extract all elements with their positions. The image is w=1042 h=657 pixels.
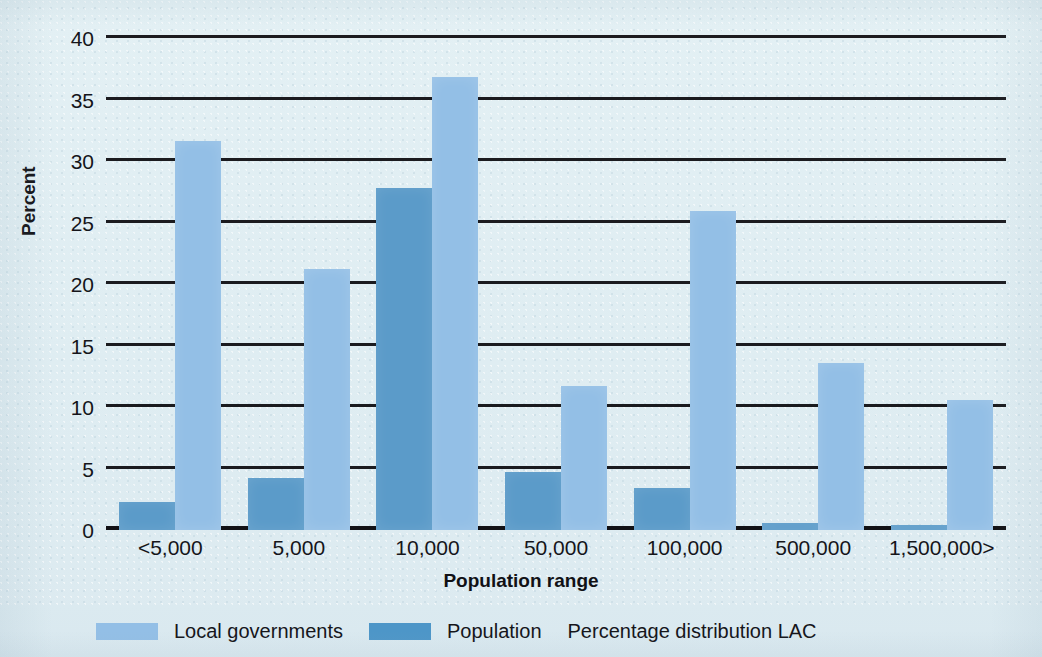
y-axis-tick-label: 30 <box>48 151 94 172</box>
bar-local-governments <box>818 363 864 530</box>
bar-local-governments <box>304 269 350 530</box>
y-axis-tick-label: 5 <box>48 458 94 479</box>
bar-group <box>749 38 878 530</box>
bar-local-governments <box>690 211 736 530</box>
legend-entry-population: Population <box>369 620 542 643</box>
bar-population <box>248 478 304 530</box>
y-axis-tick-label: 15 <box>48 335 94 356</box>
x-axis-tick-label: 5,000 <box>235 536 364 559</box>
bar-group <box>492 38 621 530</box>
bar-local-governments <box>561 386 607 530</box>
bar-population <box>505 472 561 530</box>
x-axis-tick-label: 50,000 <box>492 536 621 559</box>
y-axis-tick-label: 20 <box>48 274 94 295</box>
x-axis-tick-labels: <5,0005,00010,00050,000100,000500,0001,5… <box>106 536 1006 559</box>
legend-label-local-governments: Local governments <box>174 620 343 643</box>
bar-population <box>762 523 818 530</box>
bar-group <box>363 38 492 530</box>
y-axis-tick-label: 10 <box>48 397 94 418</box>
bar-group <box>620 38 749 530</box>
bar-local-governments <box>432 77 478 530</box>
y-axis-tick-label: 35 <box>48 89 94 110</box>
bar-local-governments <box>175 141 221 530</box>
y-axis-title: Percent <box>18 166 40 236</box>
bar-group <box>106 38 235 530</box>
bar-population <box>119 502 175 530</box>
x-axis-title: Population range <box>0 570 1042 592</box>
y-axis-tick-label: 0 <box>48 520 94 541</box>
x-axis-tick-label: <5,000 <box>106 536 235 559</box>
y-axis-tick-label: 40 <box>48 28 94 49</box>
bar-group <box>877 38 1006 530</box>
legend-swatch-population <box>369 623 431 640</box>
bar-population <box>891 525 947 530</box>
y-axis-tick-label: 25 <box>48 212 94 233</box>
legend-label-population: Population <box>447 620 542 643</box>
bar-population <box>376 188 432 530</box>
bar-group <box>235 38 364 530</box>
x-axis-tick-label: 10,000 <box>363 536 492 559</box>
legend-entry-local-governments: Local governments <box>96 620 343 643</box>
plot-area <box>106 38 1006 530</box>
legend-note: Percentage distribution LAC <box>568 620 817 643</box>
legend-swatch-local-governments <box>96 623 158 640</box>
bar-population <box>634 488 690 530</box>
x-axis-tick-label: 1,500,000> <box>877 536 1006 559</box>
x-axis-tick-label: 500,000 <box>749 536 878 559</box>
chart-figure: Percent 0510152025303540 <5,0005,00010,0… <box>0 0 1042 657</box>
chart-legend: Local governments Population Percentage … <box>0 605 1042 657</box>
x-axis-tick-label: 100,000 <box>620 536 749 559</box>
bar-groups <box>106 38 1006 530</box>
bar-local-governments <box>947 400 993 530</box>
